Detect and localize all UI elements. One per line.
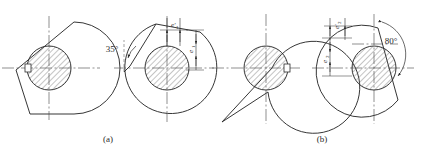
svg-text:e: e <box>321 60 329 63</box>
svg-text:e: e <box>187 50 195 53</box>
svg-text:1: 1 <box>191 45 196 48</box>
caption-a: (a) <box>103 134 113 144</box>
bore-circle-b2 <box>352 46 396 90</box>
svg-text:1: 1 <box>176 25 179 30</box>
technical-drawing-svg: 35° 80° e′ 1 e 1 e′ 2 e 2 (a) (b) <box>0 0 424 153</box>
e1-label: e 1 <box>187 45 196 53</box>
cam-profile-b-right <box>312 14 414 124</box>
profile-outline-b1 <box>222 41 360 133</box>
angle-80-label: 80° <box>385 36 398 46</box>
bore-circle-a2 <box>145 46 189 90</box>
caption-b: (b) <box>317 134 328 144</box>
e1-prime-label: e′ 1 <box>171 21 179 30</box>
angle-35-label: 35° <box>106 44 119 54</box>
diagram-canvas: 35° 80° e′ 1 e 1 e′ 2 e 2 (a) (b) <box>0 0 424 153</box>
keyway-a1 <box>25 64 31 72</box>
cam-profile-a-right <box>114 16 217 122</box>
cam-profile-a-left <box>2 16 120 120</box>
e2-prime-label: e′ 2 <box>333 21 342 29</box>
svg-text:2: 2 <box>325 55 330 58</box>
e2-label: e 2 <box>321 55 330 63</box>
bore-circle-b1 <box>244 46 288 90</box>
keyway-b1 <box>284 64 290 72</box>
bore-circle-a1 <box>27 46 71 90</box>
svg-text:2: 2 <box>337 21 342 24</box>
